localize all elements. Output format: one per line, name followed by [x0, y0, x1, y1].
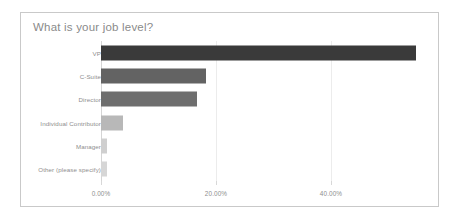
- bar: [101, 92, 197, 107]
- bar: [101, 68, 206, 83]
- x-tick-label: 40.00%: [320, 190, 342, 197]
- x-axis: 0.00%20.00%40.00%: [21, 181, 440, 208]
- bar-category-label: Other (please specify): [38, 166, 101, 173]
- bar-row: Director: [21, 88, 440, 111]
- bar-category-label: C-Suite: [80, 72, 101, 79]
- chart-title: What is your job level?: [33, 21, 153, 33]
- x-tick-label: 0.00%: [92, 190, 111, 197]
- bar: [101, 115, 123, 130]
- x-tick-mark: [101, 181, 102, 185]
- bar-row: Manager: [21, 134, 440, 157]
- bar-category-label: VP: [93, 49, 101, 56]
- x-tick-label: 20.00%: [205, 190, 227, 197]
- bar-category-label: Director: [79, 96, 101, 103]
- bar-row: C-Suite: [21, 64, 440, 87]
- bar-category-label: Manager: [76, 142, 101, 149]
- bar: [101, 162, 107, 177]
- x-tick-mark: [331, 181, 332, 185]
- bar: [101, 45, 416, 60]
- bar-series: VPC-SuiteDirectorIndividual ContributorM…: [21, 41, 440, 181]
- bar-row: Other (please specify): [21, 158, 440, 181]
- bar-row: Individual Contributor: [21, 111, 440, 134]
- x-tick-mark: [216, 181, 217, 185]
- bar: [101, 138, 107, 153]
- bar-row: VP: [21, 41, 440, 64]
- bar-category-label: Individual Contributor: [40, 119, 101, 126]
- plot-area: VPC-SuiteDirectorIndividual ContributorM…: [21, 41, 440, 208]
- chart-card: What is your job level? VPC-SuiteDirecto…: [20, 12, 439, 207]
